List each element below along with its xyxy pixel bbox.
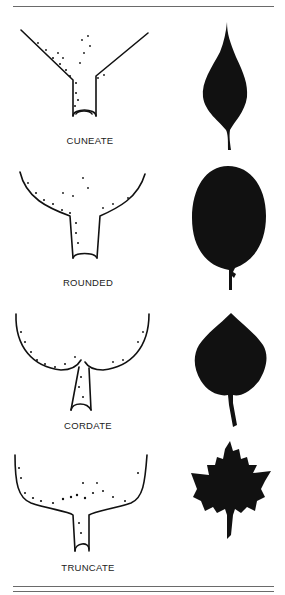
top-rule	[13, 6, 274, 7]
bottom-rule-upper	[13, 586, 274, 587]
cordate-base-drawing-icon	[13, 312, 153, 412]
heart-leaf-silhouette-icon	[193, 313, 269, 428]
truncate-base-drawing-icon	[13, 453, 153, 553]
truncate-label: TRUNCATE	[38, 562, 138, 573]
bottom-rule-lower	[13, 591, 274, 592]
oval-leaf-silhouette-icon	[190, 166, 266, 290]
cuneate-base-drawing-icon	[18, 28, 153, 123]
cuneate-label: CUNEATE	[40, 135, 140, 146]
lanceolate-leaf-silhouette-icon	[200, 22, 250, 150]
cordate-label: CORDATE	[38, 420, 138, 431]
rounded-base-drawing-icon	[18, 168, 148, 263]
rounded-label: ROUNDED	[38, 277, 138, 288]
maple-leaf-silhouette-icon	[189, 441, 273, 541]
